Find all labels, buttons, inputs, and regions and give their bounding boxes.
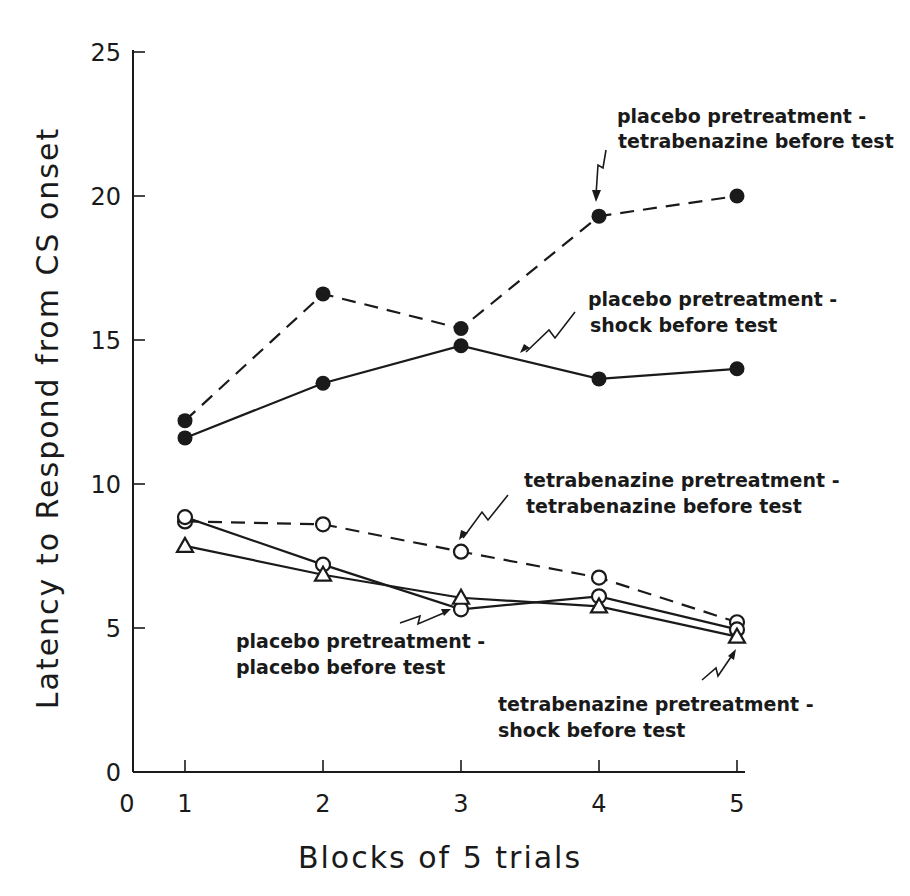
arrow-icon [702,654,733,680]
series-layer [177,189,745,643]
y-tick-label: 0 [106,759,121,787]
annotation-line: tetrabenazine pretreatment - [524,469,840,491]
annotation-placebo-placebo: placebo pretreatment - placebo before te… [236,609,485,678]
arrowhead-icon [441,609,451,616]
annotation-line: shock before test [590,314,777,336]
open-triangle-marker [177,538,193,552]
open-circle-marker [592,571,606,585]
series-1 [178,338,745,445]
filled-circle-marker [316,286,331,301]
arrowhead-icon [520,344,530,353]
annotation-placebo-tetrabenazine: placebo pretreatment - tetrabenazine bef… [592,105,894,202]
annotation-line: shock before test [498,719,685,741]
x-tick-label: 0 [119,790,134,818]
annotation-line: tetrabenazine pretreatment - [498,693,814,715]
filled-circle-marker [454,321,469,336]
y-tick-label: 20 [90,183,121,211]
annotation-line: placebo pretreatment - [588,288,837,310]
annotation-line: tetrabenazine before test [526,495,802,517]
filled-circle-marker [592,209,607,224]
arrowhead-icon [459,530,468,540]
arrowhead-icon [592,190,601,202]
annotation-tetrabenazine-tetrabenazine: tetrabenazine pretreatment - tetrabenazi… [459,469,840,540]
y-tick-label: 10 [90,471,121,499]
x-tick-label: 2 [315,790,330,818]
annotation-line: placebo pretreatment - [617,105,866,127]
arrow-icon [463,495,508,538]
y-axis-title: Latency to Respond from CS onset [30,127,65,709]
series-line [185,346,737,438]
annotation-line: placebo before test [236,656,445,678]
x-tick-label: 1 [177,790,192,818]
arrow-icon [596,150,606,195]
filled-circle-marker [454,338,469,353]
filled-circle-marker [730,189,745,204]
x-axis-title: Blocks of 5 trials [298,840,582,875]
open-circle-marker [454,545,468,559]
annotation-line: tetrabenazine before test [618,130,894,152]
x-ticks: 012345 [119,760,744,818]
x-tick-label: 5 [729,790,744,818]
x-tick-label: 3 [453,790,468,818]
y-tick-label: 5 [106,615,121,643]
y-tick-label: 25 [90,39,121,67]
annotation-placebo-shock: placebo pretreatment - shock before test [520,288,837,353]
line-chart: 0510152025 012345 Latency to Respond fro… [0,0,910,896]
open-circle-marker [316,517,330,531]
y-tick-label: 15 [90,327,121,355]
filled-circle-marker [316,376,331,391]
filled-circle-marker [178,430,193,445]
x-tick-label: 4 [591,790,606,818]
arrow-icon [400,612,446,624]
arrow-icon [526,312,575,352]
filled-circle-marker [178,413,193,428]
filled-circle-marker [592,371,607,386]
annotation-tetrabenazine-shock: tetrabenazine pretreatment - shock befor… [498,649,814,741]
open-circle-marker [178,510,192,524]
annotation-line: placebo pretreatment - [236,630,485,652]
series-3 [178,510,744,636]
filled-circle-marker [730,361,745,376]
y-ticks: 0510152025 [90,39,145,787]
